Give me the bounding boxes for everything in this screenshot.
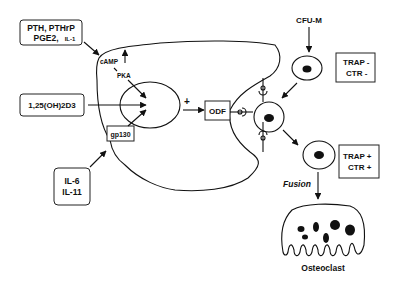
fusion-label: Fusion — [283, 179, 311, 189]
progenitor-nucleus-2 — [264, 114, 274, 122]
camp-pka-link — [114, 68, 117, 71]
gp130-arrow — [128, 110, 146, 126]
marker-neg-box: TRAP - CTR - — [336, 53, 375, 82]
cfu-m-label: CFU-M — [296, 16, 322, 25]
gp130-box: gp130 — [107, 126, 134, 141]
osteoclast-nuclei — [298, 220, 356, 243]
odf-box: ODF — [205, 101, 230, 120]
il6-label: IL-6 — [64, 176, 79, 186]
pth-label: PTH, PTHrP — [27, 23, 75, 33]
trap-neg-label: TRAP - — [343, 58, 370, 67]
osteoclast-label: Osteoclast — [301, 263, 345, 273]
progenitor-arrow-2 — [283, 130, 298, 145]
diagram-canvas: PTH, PTHrP PGE2, IL-1 cAMP PKA 1,25(OH)2… — [0, 0, 397, 287]
il11-label: IL-11 — [62, 187, 82, 197]
pth-box: PTH, PTHrP PGE2, IL-1 — [20, 20, 82, 45]
ctr-neg-label: CTR - — [346, 69, 368, 78]
vitd-label: 1,25(OH)2D3 — [28, 101, 76, 110]
pge2-label: PGE2, — [33, 33, 58, 43]
il-arrow — [90, 151, 106, 167]
progenitor-nucleus-3 — [314, 151, 324, 159]
marker-pos-box: TRAP + CTR + — [339, 145, 379, 178]
odf-label: ODF — [209, 107, 226, 116]
il-box: IL-6 IL-11 — [54, 168, 90, 205]
ctr-pos-label: CTR + — [348, 163, 372, 172]
gp130-label: gp130 — [110, 131, 130, 139]
progenitor-arrow-1 — [282, 83, 297, 98]
il1-label: IL-1 — [65, 36, 76, 42]
trap-pos-label: TRAP + — [343, 152, 372, 161]
pka-text: PKA — [117, 72, 131, 79]
plus-sign: + — [184, 96, 190, 107]
vitd-box: 1,25(OH)2D3 — [20, 94, 84, 116]
progenitor-nucleus-1 — [303, 66, 312, 73]
camp-text: cAMP — [100, 58, 119, 65]
pth-arrow — [84, 42, 99, 55]
